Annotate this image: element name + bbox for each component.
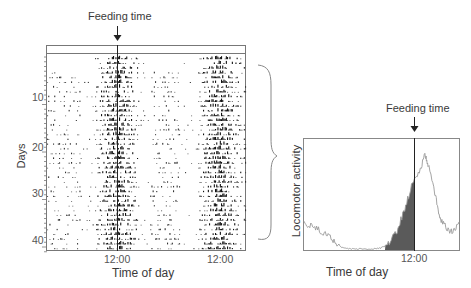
arrow-down-icon: [114, 26, 122, 41]
actogram-activity-bars: [47, 56, 246, 249]
feeding-time-label-left: Feeding time: [88, 10, 152, 22]
x-tick-1200-a: 12:00: [104, 253, 130, 265]
arrow-down-icon: [411, 117, 419, 132]
feeding-time-label-right: Feeding time: [386, 102, 450, 114]
y-axis-label-activity: Locomotor activity: [290, 141, 302, 241]
y-tick-10: 10: [32, 91, 44, 103]
anticipatory-activity-area: [385, 150, 415, 250]
y-axis-label-container-right: Locomotor activity: [246, 185, 346, 201]
y-axis-label-container: Days: [6, 150, 36, 166]
x-axis-label-right: Time of day: [326, 265, 388, 279]
activity-profile-line: [304, 153, 459, 249]
x-tick-1200-right: 12:00: [401, 252, 427, 264]
curly-brace: [258, 65, 277, 239]
y-tick-40: 40: [32, 234, 44, 246]
y-tick-30: 30: [32, 187, 44, 199]
y-axis-label-days: Days: [15, 141, 27, 171]
figure-graphics: [0, 0, 471, 288]
x-tick-1200-b: 12:00: [207, 253, 233, 265]
x-axis-label-left: Time of day: [112, 266, 174, 280]
